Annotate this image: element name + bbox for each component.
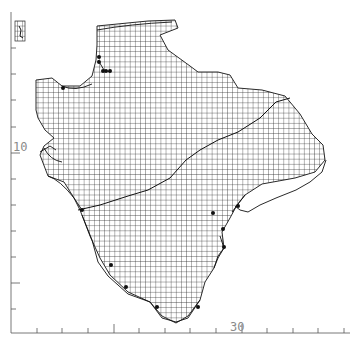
record-dot bbox=[97, 55, 101, 59]
inset-island bbox=[15, 21, 25, 41]
record-dot bbox=[124, 285, 128, 289]
record-dot bbox=[155, 305, 159, 309]
record-dot bbox=[61, 86, 65, 90]
record-dot bbox=[108, 69, 112, 73]
y-axis-label: 10 bbox=[13, 140, 27, 154]
record-dot bbox=[80, 208, 84, 212]
record-dot bbox=[236, 204, 240, 208]
record-dot bbox=[196, 305, 200, 309]
record-dot bbox=[222, 245, 226, 249]
record-dot bbox=[109, 263, 113, 267]
record-dot bbox=[104, 69, 108, 73]
record-dot bbox=[211, 211, 215, 215]
county-grid bbox=[0, 0, 356, 337]
x-axis-label: 30 bbox=[230, 320, 244, 334]
distribution-map: 10 30 bbox=[0, 0, 356, 337]
record-dot bbox=[221, 227, 225, 231]
record-dot bbox=[97, 60, 101, 64]
